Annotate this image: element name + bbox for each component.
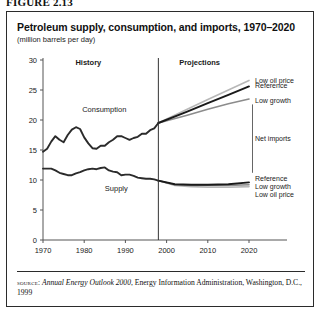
chart-units-subtitle: (million barrels per day) (17, 35, 307, 44)
chart-frame: Petroleum supply, consumption, and impor… (6, 11, 314, 307)
y-tick-label: 20 (29, 116, 37, 125)
y-tick-label: 25 (29, 86, 37, 95)
x-tick-label: 1990 (117, 246, 134, 255)
supply-series-label: Supply (105, 184, 128, 193)
fan-label-upper-2: Low growth (255, 97, 291, 105)
chart-canvas: 051015202530197019801990200020102020Hist… (17, 50, 305, 265)
source-publication: Annual Energy Outlook 2000 (42, 278, 131, 287)
net-imports-label: Net imports (255, 135, 291, 143)
y-tick-label: 5 (33, 206, 37, 215)
projection-consumption-low-growth (158, 99, 249, 123)
figure-container: FIGURE 2.13 Petroleum supply, consumptio… (0, 0, 322, 324)
y-tick-label: 10 (29, 176, 37, 185)
history-label: History (75, 58, 102, 67)
history-consumption-line (43, 123, 158, 152)
plot-area: 051015202530197019801990200020102020Hist… (17, 50, 305, 265)
projection-consumption-reference (158, 86, 249, 123)
source-note: source: Annual Energy Outlook 2000, Ener… (17, 278, 307, 298)
projection-supply-reference (158, 181, 249, 185)
x-tick-label: 2000 (158, 246, 175, 255)
fan-label-lower-2: Low oil price (255, 191, 294, 199)
y-tick-label: 15 (29, 146, 37, 155)
chart-title: Petroleum supply, consumption, and impor… (17, 21, 307, 33)
figure-caption: FIGURE 2.13 (6, 0, 126, 8)
x-tick-label: 2020 (241, 246, 258, 255)
x-tick-label: 2010 (199, 246, 216, 255)
x-tick-label: 1980 (76, 246, 93, 255)
projections-label: Projections (179, 58, 220, 67)
source-label: source: (17, 279, 40, 287)
fan-label-upper-1: Reference (255, 82, 287, 89)
source-divider (17, 271, 305, 272)
y-tick-label: 30 (29, 56, 37, 65)
consumption-series-label: Consumption (82, 105, 126, 114)
fan-label-lower-1: Low growth (255, 183, 291, 191)
y-tick-label: 0 (33, 236, 37, 245)
fan-label-lower-0: Reference (255, 175, 287, 182)
x-tick-label: 1970 (35, 246, 52, 255)
history-supply-line (43, 167, 158, 180)
